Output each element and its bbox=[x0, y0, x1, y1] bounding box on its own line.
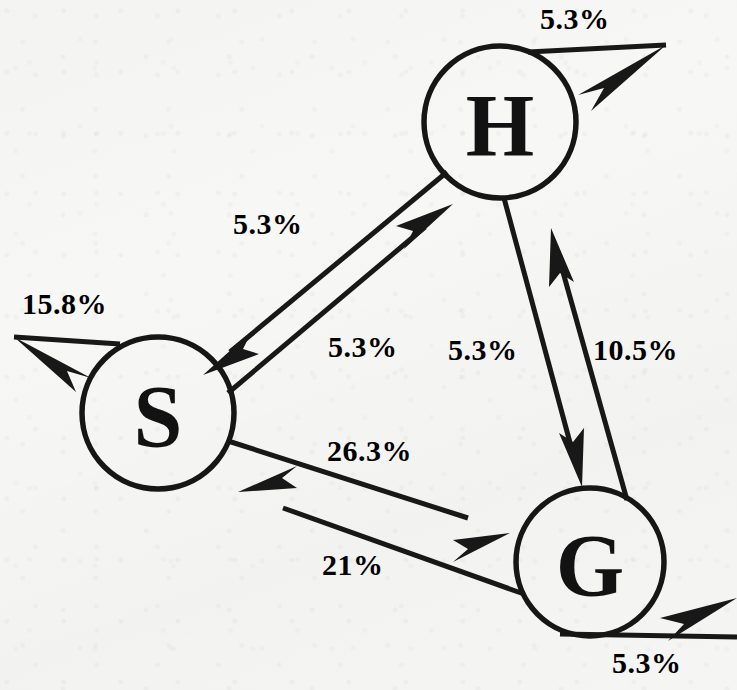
edge-H-to-G-arrowhead bbox=[559, 428, 584, 487]
edge-S-to-S bbox=[14, 337, 120, 392]
edge-label-S-to-S: 15.8% bbox=[22, 287, 107, 321]
node-S-label: S bbox=[134, 368, 183, 465]
edge-H-to-H bbox=[528, 45, 666, 111]
diagram-canvas: S H G 5.3% 5.3% 5.3% 15.8% 5.3% 10.5% 26… bbox=[0, 0, 737, 690]
edge-label-S-to-G: 26.3% bbox=[327, 434, 412, 468]
edge-S-to-S-line bbox=[14, 337, 120, 344]
edge-label-G-to-G: 5.3% bbox=[612, 646, 682, 680]
edge-H-to-S bbox=[203, 172, 447, 375]
edge-H-to-H-line bbox=[528, 45, 666, 52]
edge-label-H-to-G: 5.3% bbox=[448, 333, 518, 367]
node-H[interactable]: H bbox=[424, 46, 576, 198]
edge-G-to-H-arrowhead bbox=[549, 228, 574, 287]
edge-H-to-H-arrowhead bbox=[578, 45, 666, 111]
edge-S-to-S-arrowhead bbox=[14, 337, 91, 392]
edge-H-to-G-line bbox=[504, 198, 572, 450]
edge-label-G-to-S: 21% bbox=[322, 548, 384, 582]
edge-S-to-H-line bbox=[228, 227, 425, 393]
node-H-label: H bbox=[466, 77, 534, 174]
edge-G-to-S-line bbox=[283, 508, 524, 594]
edge-G-to-S-arrowhead bbox=[238, 466, 297, 492]
node-S[interactable]: S bbox=[82, 337, 234, 489]
edge-H-to-S-line bbox=[230, 172, 447, 352]
edge-label-H-to-S: 5.3% bbox=[233, 207, 303, 241]
edge-label-H-to-H: 5.3% bbox=[540, 2, 610, 36]
node-G[interactable]: G bbox=[516, 488, 664, 636]
node-G-label: G bbox=[556, 517, 624, 614]
edge-label-S-to-H: 5.3% bbox=[328, 330, 398, 364]
edge-G-to-H-line bbox=[561, 265, 627, 500]
edge-label-G-to-H: 10.5% bbox=[593, 333, 678, 367]
edge-S-to-G-arrowhead bbox=[453, 533, 510, 562]
